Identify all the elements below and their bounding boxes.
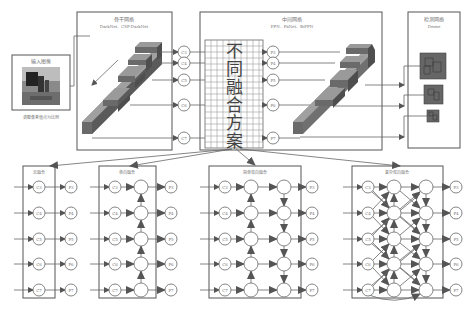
svg-text:P3: P3 xyxy=(168,185,174,190)
svg-text:P5: P5 xyxy=(453,237,459,242)
svg-text:C7: C7 xyxy=(222,288,228,293)
svg-text:C3: C3 xyxy=(181,50,187,55)
svg-text:C6: C6 xyxy=(365,262,371,267)
svg-text:C5: C5 xyxy=(36,237,42,242)
svg-text:P6: P6 xyxy=(270,103,276,108)
architecture-diagram: 输入图像 调整像素值点为比例 骨干网络 DarkNet、CSP-DarkNet xyxy=(0,0,475,315)
panel-complex-bidirectional-fusion: 复杂双向融合 xyxy=(343,166,462,300)
svg-text:C4: C4 xyxy=(181,61,187,66)
fusion-char-5: 方 xyxy=(226,113,243,133)
svg-text:P6: P6 xyxy=(68,262,74,267)
svg-text:P3: P3 xyxy=(309,185,315,190)
svg-text:C6: C6 xyxy=(36,262,42,267)
svg-text:C5: C5 xyxy=(112,237,118,242)
svg-text:C4: C4 xyxy=(36,211,42,216)
svg-text:P7: P7 xyxy=(270,136,276,141)
svg-text:C5: C5 xyxy=(222,237,228,242)
panel-unidirectional-fusion: 单向融合 C3 C4 C5 C6 C7 xyxy=(90,166,177,298)
svg-text:P4: P4 xyxy=(309,211,315,216)
input-image-block: 输入图像 调整像素值点为比例 xyxy=(12,36,90,120)
svg-text:P3: P3 xyxy=(270,50,276,55)
svg-text:C3: C3 xyxy=(112,185,118,190)
neck-pyramid xyxy=(293,44,375,134)
svg-text:C5: C5 xyxy=(181,78,187,83)
fusion-char-3: 融 xyxy=(226,77,243,97)
panel-3-title: 简单双向融合 xyxy=(243,169,267,175)
panel-2-title: 单向融合 xyxy=(119,169,135,175)
svg-text:P4: P4 xyxy=(68,211,74,216)
input-title: 输入图像 xyxy=(31,58,51,65)
panel-1-title: 无融合 xyxy=(33,169,45,175)
panel-simple-bidirectional-fusion: 简单双向融合 xyxy=(200,166,318,298)
svg-text:C3: C3 xyxy=(36,185,42,190)
backbone-pyramid xyxy=(82,42,162,134)
svg-text:C6: C6 xyxy=(112,262,118,267)
panel-4-title: 复杂双向融合 xyxy=(385,169,409,175)
svg-text:P5: P5 xyxy=(168,237,174,242)
svg-text:P5: P5 xyxy=(309,237,315,242)
svg-text:P5: P5 xyxy=(270,78,276,83)
svg-text:P4: P4 xyxy=(453,211,459,216)
svg-text:C4: C4 xyxy=(222,211,228,216)
svg-text:C7: C7 xyxy=(181,136,187,141)
svg-text:P4: P4 xyxy=(270,61,276,66)
fusion-char-1: 不 xyxy=(226,41,243,61)
head-title: 检测网络 xyxy=(424,16,444,23)
neck-block: 中间网络 FPN、PaNet、BiFPN xyxy=(190,12,404,151)
svg-text:C4: C4 xyxy=(112,211,118,216)
fanout-arrows xyxy=(50,149,400,166)
fusion-grid: 不 同 融 合 方 案 xyxy=(205,40,263,151)
svg-text:C6: C6 xyxy=(181,103,187,108)
input-connector xyxy=(70,36,90,86)
svg-text:C6: C6 xyxy=(222,262,228,267)
svg-text:C4: C4 xyxy=(365,211,371,216)
svg-text:P6: P6 xyxy=(453,262,459,267)
svg-text:P7: P7 xyxy=(168,288,174,293)
svg-text:P6: P6 xyxy=(309,262,315,267)
fusion-char-6: 案 xyxy=(226,131,243,151)
svg-text:C3: C3 xyxy=(365,185,371,190)
backbone-title: 骨干网络 xyxy=(114,16,134,23)
svg-text:P7: P7 xyxy=(68,288,74,293)
head-subtitle: Dense xyxy=(428,24,441,29)
fusion-char-2: 同 xyxy=(226,59,243,79)
svg-text:C7: C7 xyxy=(365,288,371,293)
fusion-char-4: 合 xyxy=(226,95,243,115)
backbone-subtitle: DarkNet、CSP-DarkNet xyxy=(100,24,149,29)
svg-text:P6: P6 xyxy=(168,262,174,267)
input-caption: 调整像素值点为比例 xyxy=(23,114,59,120)
head-box xyxy=(408,12,460,148)
svg-text:C5: C5 xyxy=(365,237,371,242)
svg-text:P3: P3 xyxy=(453,185,459,190)
backbone-block: 骨干网络 DarkNet、CSP-DarkNet xyxy=(77,12,172,150)
svg-text:P3: P3 xyxy=(68,185,74,190)
downsample-arrow xyxy=(92,60,118,85)
neck-title: 中间网络 xyxy=(282,16,302,23)
svg-text:C7: C7 xyxy=(112,288,118,293)
svg-text:P4: P4 xyxy=(168,211,174,216)
svg-text:P7: P7 xyxy=(453,288,459,293)
head-small-featuremap xyxy=(427,110,439,122)
input-photo xyxy=(22,67,60,105)
head-block: 检测网络 Dense xyxy=(404,12,460,148)
head-medium-featuremap xyxy=(424,85,443,104)
panel-no-fusion: 无融合 C3 C4 C5 C6 C7 P3 P4 P5 P6 P7 xyxy=(14,166,77,298)
svg-text:P5: P5 xyxy=(68,237,74,242)
svg-text:P7: P7 xyxy=(309,288,315,293)
head-large-featuremap xyxy=(420,53,446,79)
svg-text:C3: C3 xyxy=(222,185,228,190)
neck-subtitle: FPN、PaNet、BiFPN xyxy=(271,24,314,29)
svg-text:C7: C7 xyxy=(36,288,42,293)
